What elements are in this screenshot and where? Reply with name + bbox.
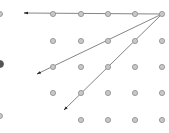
grid-dot [159,64,164,69]
grid-dot [78,64,83,69]
edge-dots [0,12,4,119]
grid-dot [159,117,164,122]
grid-dot [132,90,137,95]
grid-dot [78,38,83,43]
grid-dot [105,38,110,43]
edge-dot [0,114,3,119]
arrow [37,14,162,74]
grid-dot [78,11,83,16]
edge-dot [0,12,3,17]
grid-dot [50,90,55,95]
grid-dot [105,117,110,122]
arrow [64,14,162,110]
arrows [24,13,162,110]
grid-dot [132,11,137,16]
grid-dot [78,117,83,122]
grid-dot [132,38,137,43]
grid-dot [132,64,137,69]
grid-dot [105,64,110,69]
grid-dot [105,90,110,95]
arrow [24,13,162,14]
grid-dot [50,38,55,43]
grid-dot [50,11,55,16]
grid-dot [132,117,137,122]
grid-dot [78,90,83,95]
grid-dot [159,38,164,43]
grid-dot [105,11,110,16]
edge-dot [0,61,4,68]
dot-grid-diagram [0,0,169,133]
grid-dot [50,64,55,69]
grid-dot [159,90,164,95]
grid-dot [159,11,164,16]
